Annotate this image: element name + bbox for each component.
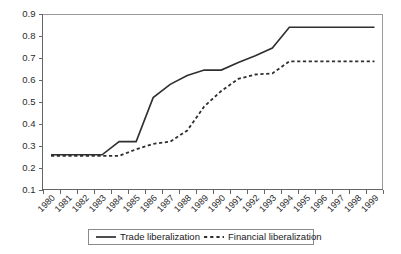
y-axis-ticks: [39, 15, 43, 191]
chart-canvas: 0.10.20.30.40.50.60.70.80.9 198019811982…: [0, 0, 401, 254]
x-tick-label-1997: 1997: [325, 193, 346, 214]
y-tick-label: 0.7: [22, 52, 35, 63]
x-tick-label-1984: 1984: [104, 193, 125, 214]
x-tick-label-1980: 1980: [36, 193, 57, 214]
y-tick-label: 0.9: [22, 8, 35, 19]
x-tick-label-1991: 1991: [223, 193, 244, 214]
plot-background: [42, 14, 383, 190]
y-tick-label: 0.1: [22, 184, 35, 195]
x-axis-ticks: [43, 190, 384, 194]
legend-label-financial-liberalization: Financial liberalization: [228, 231, 321, 242]
x-tick-label-1994: 1994: [274, 193, 295, 214]
legend-label-trade-liberalization: Trade liberalization: [120, 231, 200, 242]
x-tick-label-1985: 1985: [121, 193, 142, 214]
x-tick-label-1981: 1981: [53, 193, 74, 214]
y-tick-label: 0.5: [22, 96, 35, 107]
x-tick-label-1986: 1986: [138, 193, 159, 214]
y-tick-label: 0.2: [22, 162, 35, 173]
x-tick-label-1988: 1988: [172, 193, 193, 214]
y-tick-label: 0.3: [22, 140, 35, 151]
x-tick-label-1983: 1983: [87, 193, 108, 214]
x-tick-label-1987: 1987: [155, 193, 176, 214]
x-tick-label-1989: 1989: [189, 193, 210, 214]
x-tick-label-1992: 1992: [240, 193, 261, 214]
x-tick-label-1996: 1996: [308, 193, 329, 214]
x-tick-label-1998: 1998: [342, 193, 363, 214]
x-tick-label-1999: 1999: [359, 193, 380, 214]
y-tick-label: 0.4: [22, 118, 35, 129]
y-tick-label: 0.6: [22, 74, 35, 85]
x-axis-tick-labels: 1980198119821983198419851986198719881989…: [36, 193, 381, 214]
x-tick-label-1990: 1990: [206, 193, 227, 214]
x-tick-label-1982: 1982: [70, 193, 91, 214]
x-tick-label-1993: 1993: [257, 193, 278, 214]
y-tick-label: 0.8: [22, 30, 35, 41]
y-axis-tick-labels: 0.10.20.30.40.50.60.70.80.9: [22, 8, 35, 195]
chart-legend: Trade liberalizationFinancial liberaliza…: [89, 230, 322, 245]
line-chart: 0.10.20.30.40.50.60.70.80.9 198019811982…: [0, 0, 401, 254]
x-tick-label-1995: 1995: [291, 193, 312, 214]
